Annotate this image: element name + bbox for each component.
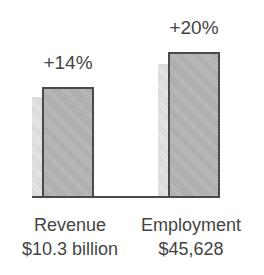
bar-employment — [168, 52, 220, 197]
bar-chart: +14% +20% Revenue $10.3 billion Employme… — [0, 0, 264, 275]
x-axis-baseline — [32, 196, 220, 198]
category-sublabel: $45,628 — [126, 237, 256, 261]
value-label-revenue: +14% — [28, 52, 108, 74]
category-label-employment: Employment $45,628 — [126, 213, 256, 261]
category-label-revenue: Revenue $10.3 billion — [5, 213, 135, 261]
category-sublabel: $10.3 billion — [5, 237, 135, 261]
category-name: Employment — [126, 213, 256, 237]
bar-revenue — [42, 87, 94, 197]
category-name: Revenue — [5, 213, 135, 237]
value-label-employment: +20% — [154, 17, 234, 39]
